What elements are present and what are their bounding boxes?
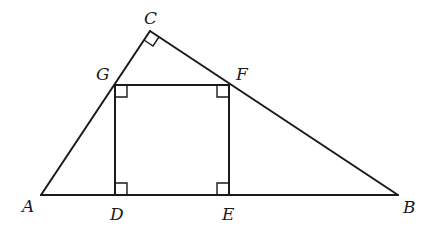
right-angle-mark-g xyxy=(115,85,127,97)
segment-ac xyxy=(41,31,150,195)
label-a: A xyxy=(20,196,34,216)
geometry-figure: A B C D E F G xyxy=(0,0,432,228)
label-f: F xyxy=(235,64,249,84)
label-d: D xyxy=(109,204,124,224)
label-g: G xyxy=(96,64,110,84)
label-e: E xyxy=(221,204,235,224)
right-angle-mark-f xyxy=(217,85,229,97)
label-c: C xyxy=(144,8,157,28)
segment-cb xyxy=(150,31,398,195)
right-angle-mark-e xyxy=(217,183,229,195)
label-b: B xyxy=(402,197,416,217)
right-angle-mark-d xyxy=(115,183,127,195)
